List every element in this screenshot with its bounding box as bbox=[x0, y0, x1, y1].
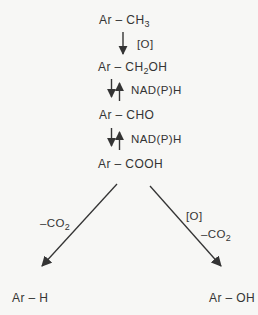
compound-ar-ch2oh: Ar – CH2OH bbox=[98, 60, 167, 78]
reagent-right-co2-text: –CO bbox=[201, 228, 226, 240]
compound-ar-ch3-subscript: 3 bbox=[144, 19, 149, 29]
compound-ar-cho-text: Ar – CHO bbox=[99, 108, 154, 122]
reagent-right-co2: –CO2 bbox=[201, 227, 231, 245]
product-ar-h-text: Ar – H bbox=[12, 291, 48, 305]
product-ar-oh-text: Ar – OH bbox=[209, 291, 255, 305]
reagent-nadph-1: NAD(P)H bbox=[131, 83, 182, 97]
oxidative-decarboxylation-arrow bbox=[150, 186, 221, 266]
compound-ar-cho: Ar – CHO bbox=[99, 108, 154, 122]
reagent-right-oxidant: [O] bbox=[186, 209, 203, 223]
compound-ar-cooh: Ar – COOH bbox=[98, 157, 163, 171]
reagent-oxidant-top: [O] bbox=[137, 37, 154, 51]
compound-ar-cooh-text: Ar – COOH bbox=[98, 157, 163, 171]
reagent-right-co2-subscript: 2 bbox=[226, 233, 231, 243]
product-ar-h: Ar – H bbox=[12, 291, 48, 305]
product-ar-oh: Ar – OH bbox=[209, 291, 255, 305]
compound-ar-ch2oh-tail: OH bbox=[149, 60, 168, 74]
compound-ar-ch3: Ar – CH3 bbox=[99, 13, 150, 31]
reagent-nadph-2: NAD(P)H bbox=[131, 132, 182, 146]
reaction-scheme-diagram: Ar – CH3 [O] Ar – CH2OH NAD(P)H Ar – CHO… bbox=[0, 0, 258, 315]
reagent-left-co2-text: –CO bbox=[40, 217, 65, 229]
reagent-left-co2-subscript: 2 bbox=[65, 222, 70, 232]
reagent-left-co2: –CO2 bbox=[40, 216, 70, 234]
compound-ar-ch2oh-text: Ar – CH bbox=[98, 60, 143, 74]
compound-ar-ch3-text: Ar – CH bbox=[99, 13, 144, 27]
